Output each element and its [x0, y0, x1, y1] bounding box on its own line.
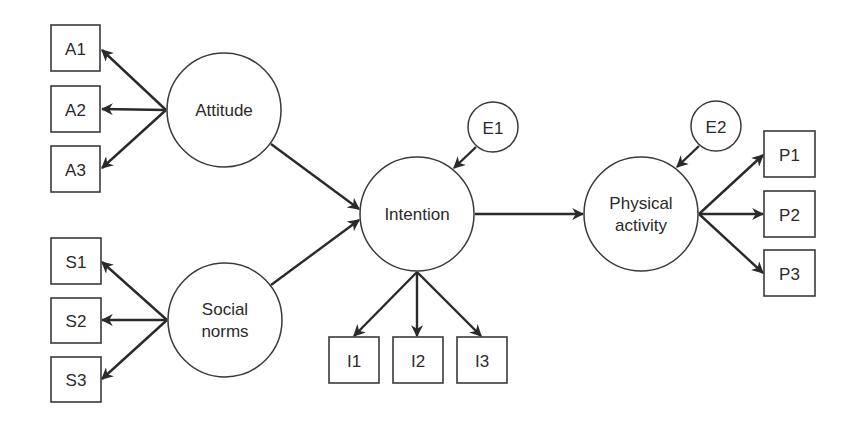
indicator-p3: P3 [764, 250, 815, 296]
latent-label: Intention [384, 205, 449, 224]
indicator-label: I3 [475, 352, 489, 371]
sem-diagram: A1A2A3S1S2S3I1I2I3P1P2P3 AttitudeSocialn… [0, 0, 854, 427]
indicator-i2: I2 [393, 337, 443, 383]
path-arrow-e1-to-intention [454, 147, 476, 168]
error-e2: E2 [691, 101, 741, 151]
latent-label: Physical [609, 194, 672, 213]
indicator-label: S2 [66, 312, 87, 331]
indicator-label: S3 [66, 371, 87, 390]
path-arrow-e2-to-physical-activity [677, 146, 699, 167]
latent-label: Social [202, 300, 248, 319]
indicator-a3: A3 [51, 146, 100, 192]
path-arrow-attitude-to-a1 [102, 50, 166, 110]
latent-circle [168, 263, 282, 377]
indicator-a1: A1 [51, 25, 100, 71]
indicator-label: I1 [347, 352, 361, 371]
path-arrow-social-norms-to-intention [271, 220, 359, 285]
indicator-label: P1 [779, 146, 800, 165]
error-label: E1 [483, 119, 504, 138]
indicator-label: P3 [779, 265, 800, 284]
error-e1: E1 [468, 102, 518, 152]
indicator-i3: I3 [457, 337, 507, 383]
indicator-label: P2 [779, 206, 800, 225]
indicator-label: A3 [65, 161, 86, 180]
indicator-label: S1 [66, 253, 87, 272]
latent-label: Attitude [195, 101, 253, 120]
path-arrow-social-norms-to-s3 [102, 320, 167, 379]
path-arrow-physical-activity-to-p1 [699, 155, 763, 214]
latent-circle [584, 157, 698, 271]
latent-attitude: Attitude [167, 53, 281, 167]
path-arrow-attitude-to-intention [271, 144, 359, 209]
path-arrow-physical-activity-to-p3 [699, 214, 763, 273]
path-arrow-attitude-to-a2 [102, 109, 166, 110]
error-terms: E1E2 [468, 101, 741, 152]
latent-label: norms [201, 322, 248, 341]
indicator-s1: S1 [51, 238, 101, 284]
latent-variables: AttitudeSocialnormsIntentionPhysicalacti… [167, 53, 698, 377]
indicator-p1: P1 [764, 131, 815, 177]
indicator-label: I2 [411, 352, 425, 371]
latent-social-norms: Socialnorms [168, 263, 282, 377]
path-arrow-intention-to-i3 [417, 272, 481, 336]
path-arrow-social-norms-to-s1 [102, 262, 167, 320]
error-label: E2 [706, 118, 727, 137]
path-arrow-intention-to-i1 [354, 272, 417, 336]
indicator-s3: S3 [51, 357, 101, 402]
indicator-label: A2 [65, 101, 86, 120]
latent-intention: Intention [360, 157, 474, 271]
path-arrow-attitude-to-a3 [102, 110, 166, 168]
indicator-a2: A2 [51, 86, 100, 132]
indicator-s2: S2 [51, 298, 101, 343]
indicator-p2: P2 [764, 191, 815, 237]
latent-label: activity [615, 216, 667, 235]
indicator-label: A1 [65, 40, 86, 59]
latent-physical-activity: Physicalactivity [584, 157, 698, 271]
indicator-i1: I1 [329, 337, 379, 383]
